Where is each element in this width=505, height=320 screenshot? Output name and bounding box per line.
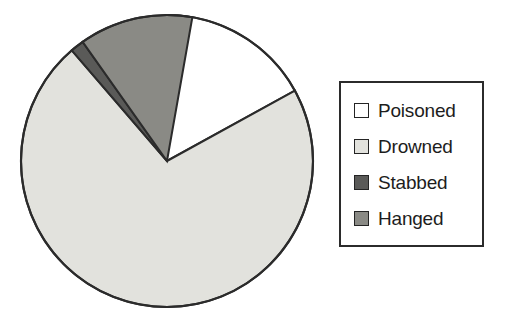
legend-item-hanged[interactable]: Hanged	[341, 200, 482, 236]
legend-label-drowned: Drowned	[378, 137, 453, 156]
legend-swatch-hanged	[354, 211, 369, 226]
legend: Poisoned Drowned Stabbed Hanged	[339, 81, 484, 247]
legend-label-stabbed: Stabbed	[378, 173, 447, 192]
legend-label-hanged: Hanged	[378, 209, 443, 228]
legend-item-poisoned[interactable]: Poisoned	[341, 92, 482, 128]
legend-swatch-drowned	[354, 139, 369, 154]
pie-svg	[18, 6, 318, 316]
pie-chart-figure: Poisoned Drowned Stabbed Hanged	[0, 0, 505, 320]
legend-item-drowned[interactable]: Drowned	[341, 128, 482, 164]
legend-swatch-stabbed	[354, 175, 369, 190]
legend-label-poisoned: Poisoned	[378, 101, 456, 120]
legend-item-stabbed[interactable]: Stabbed	[341, 164, 482, 200]
pie-slices-group	[21, 15, 313, 307]
legend-swatch-poisoned	[354, 103, 369, 118]
pie-plot-area	[18, 6, 318, 316]
